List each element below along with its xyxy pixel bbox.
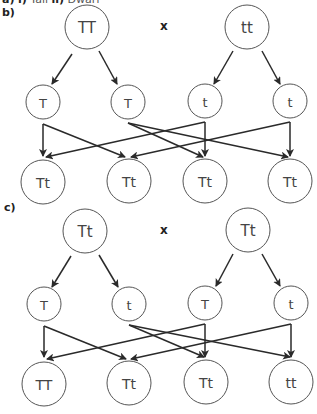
arrow [214, 51, 233, 84]
gamete-node-c-3: T [188, 286, 222, 320]
arrow [262, 254, 280, 286]
section-b-diagram: TT tt T T t t Tt Tt [21, 5, 312, 204]
section-c-diagram: Tt Tt T t T t TT Tt [22, 208, 313, 406]
arrow [99, 255, 118, 287]
gamete-node-c-4: t [274, 286, 308, 320]
svg-text:Tt: Tt [198, 375, 214, 391]
offspring-node-b-1: Tt [21, 160, 65, 204]
parent-node-c-2: Tt [226, 208, 270, 252]
svg-text:Tt: Tt [35, 175, 51, 191]
svg-text:T: T [200, 297, 209, 312]
gamete-node-b-3: t [188, 84, 222, 118]
offspring-node-c-4: tt [269, 360, 313, 404]
svg-text:T: T [38, 96, 47, 111]
svg-text:tt: tt [286, 375, 297, 391]
svg-text:TT: TT [77, 19, 97, 37]
svg-text:t: t [126, 298, 131, 313]
svg-text:T: T [39, 298, 48, 313]
arrow [47, 324, 205, 359]
arrow [52, 256, 71, 287]
svg-text:Tt: Tt [197, 174, 213, 190]
svg-text:tt: tt [241, 19, 253, 37]
svg-text:TT: TT [35, 377, 53, 393]
offspring-node-c-2: Tt [107, 361, 151, 405]
gamete-node-c-1: T [27, 287, 61, 321]
gamete-node-c-2: t [112, 287, 146, 321]
parent-node-c-1: Tt [63, 209, 107, 253]
svg-text:Tt: Tt [121, 376, 137, 392]
offspring-node-c-3: Tt [184, 360, 228, 404]
svg-text:T: T [123, 96, 132, 111]
arrow [262, 51, 280, 84]
arrow [52, 54, 72, 84]
offspring-node-b-4: Tt [268, 159, 312, 203]
genetic-cross-diagram: TT tt T T t t Tt Tt [0, 0, 317, 414]
gamete-node-b-2: T [111, 85, 145, 119]
svg-text:Tt: Tt [76, 223, 92, 241]
gamete-node-b-1: T [26, 85, 60, 119]
arrow [128, 123, 203, 157]
parent-node-b-1: TT [65, 5, 109, 49]
arrow [129, 325, 204, 357]
arrow [131, 324, 291, 359]
svg-text:Tt: Tt [239, 222, 255, 240]
svg-text:t: t [287, 95, 292, 110]
arrow [43, 124, 125, 157]
svg-text:Tt: Tt [121, 174, 137, 190]
parent-node-b-2: tt [225, 5, 269, 49]
svg-text:Tt: Tt [282, 174, 298, 190]
offspring-node-b-2: Tt [107, 159, 151, 203]
arrow [46, 122, 205, 157]
svg-text:t: t [288, 297, 293, 312]
svg-text:t: t [202, 95, 207, 110]
offspring-node-b-3: Tt [183, 159, 227, 203]
arrow [44, 326, 126, 359]
offspring-node-c-1: TT [22, 362, 66, 406]
arrow [99, 51, 117, 84]
gamete-node-b-4: t [273, 84, 307, 118]
arrow [216, 254, 233, 286]
